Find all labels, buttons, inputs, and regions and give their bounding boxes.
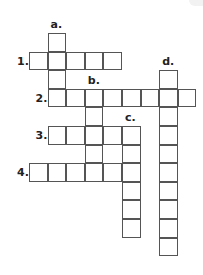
crossword-cell[interactable] xyxy=(159,89,178,108)
clue-label-c: c. xyxy=(125,111,136,124)
crossword-cell[interactable] xyxy=(85,163,104,182)
crossword-cell[interactable] xyxy=(85,126,104,145)
crossword-cell[interactable] xyxy=(122,145,141,164)
clue-label-b: b. xyxy=(88,74,100,87)
clue-label-3: 3. xyxy=(36,129,48,142)
crossword-cell[interactable] xyxy=(159,219,178,238)
crossword-cell[interactable] xyxy=(48,52,67,71)
crossword-cell[interactable] xyxy=(122,219,141,238)
crossword-cell[interactable] xyxy=(159,70,178,89)
crossword-cell[interactable] xyxy=(66,163,85,182)
crossword-cell[interactable] xyxy=(141,89,160,108)
crossword-cell[interactable] xyxy=(29,163,48,182)
page-corner xyxy=(189,0,203,6)
crossword-cell[interactable] xyxy=(85,52,104,71)
crossword-cell[interactable] xyxy=(48,126,67,145)
crossword-cell[interactable] xyxy=(122,200,141,219)
crossword-cell[interactable] xyxy=(159,200,178,219)
crossword-cell[interactable] xyxy=(48,163,67,182)
crossword-cell[interactable] xyxy=(122,89,141,108)
crossword-cell[interactable] xyxy=(159,182,178,201)
crossword-cell[interactable] xyxy=(29,52,48,71)
crossword-cell[interactable] xyxy=(178,89,197,108)
crossword-cell[interactable] xyxy=(159,126,178,145)
crossword-cell[interactable] xyxy=(48,89,67,108)
clue-label-1: 1. xyxy=(17,55,29,68)
crossword-cell[interactable] xyxy=(103,163,122,182)
crossword-cell[interactable] xyxy=(159,107,178,126)
crossword-cell[interactable] xyxy=(85,89,104,108)
crossword-cell[interactable] xyxy=(66,89,85,108)
crossword-cell[interactable] xyxy=(66,126,85,145)
crossword-cell[interactable] xyxy=(159,238,178,257)
clue-label-d: d. xyxy=(162,55,174,68)
crossword-cell[interactable] xyxy=(103,52,122,71)
crossword-cell[interactable] xyxy=(103,126,122,145)
crossword-cell[interactable] xyxy=(85,107,104,126)
crossword-cell[interactable] xyxy=(85,145,104,164)
crossword-cell[interactable] xyxy=(159,163,178,182)
crossword-cell[interactable] xyxy=(159,145,178,164)
crossword-cell[interactable] xyxy=(122,126,141,145)
crossword-cell[interactable] xyxy=(103,89,122,108)
crossword-cell[interactable] xyxy=(122,182,141,201)
crossword-cell[interactable] xyxy=(66,52,85,71)
clue-label-a: a. xyxy=(51,18,63,31)
crossword-cell[interactable] xyxy=(48,33,67,52)
clue-label-2: 2. xyxy=(36,92,48,105)
crossword-cell[interactable] xyxy=(122,163,141,182)
clue-label-4: 4. xyxy=(17,166,29,179)
crossword-cell[interactable] xyxy=(48,70,67,89)
